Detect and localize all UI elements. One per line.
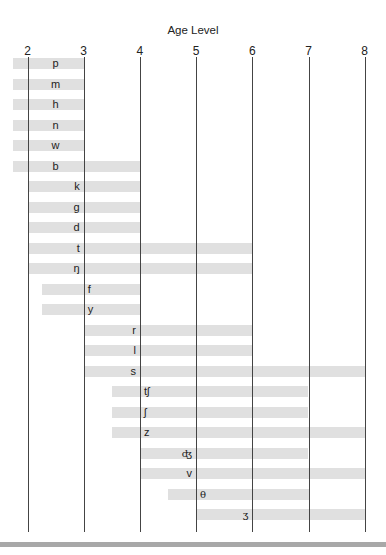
bar-label: tʃ	[144, 386, 150, 397]
x-tick-label: 7	[299, 44, 319, 58]
bar-label: p	[36, 58, 76, 69]
grid-line	[309, 57, 310, 532]
range-bar	[168, 489, 309, 500]
bar-label: w	[36, 140, 76, 151]
range-bar	[112, 427, 365, 438]
x-tick-label: 8	[355, 44, 375, 58]
grid-line	[252, 57, 253, 532]
bar-label: θ	[200, 489, 206, 500]
grid-line	[28, 57, 29, 532]
grid-line	[196, 57, 197, 532]
bar-label: ʃ	[144, 407, 146, 418]
x-tick-label: 4	[130, 44, 150, 58]
bar-label: y	[88, 304, 94, 315]
bar-label: t	[40, 243, 80, 254]
bar-label: n	[36, 120, 76, 131]
range-bar	[112, 407, 309, 418]
x-tick-label: 5	[186, 44, 206, 58]
bar-label: h	[36, 99, 76, 110]
grid-line	[140, 57, 141, 532]
bar-label: z	[144, 427, 150, 438]
chart-title: Age Level	[0, 24, 386, 36]
range-bar	[13, 161, 139, 172]
grid-line	[365, 57, 366, 532]
bar-label: s	[96, 366, 136, 377]
bar-label: v	[152, 468, 192, 479]
bar-label: d	[40, 222, 80, 233]
bar-label: r	[96, 325, 136, 336]
phoneme-age-chart: Age Level 2345678 pmhnwbkgdtŋfyrlstʃʃzʤv…	[0, 0, 386, 555]
range-bar	[112, 386, 309, 397]
bar-label: m	[36, 79, 76, 90]
bar-label: ʒ	[208, 509, 248, 520]
bar-label: g	[40, 202, 80, 213]
bar-label: k	[40, 181, 80, 192]
x-tick-label: 2	[18, 44, 38, 58]
bar-label: ʤ	[152, 448, 192, 459]
footer-rule	[0, 542, 386, 547]
x-tick-label: 3	[74, 44, 94, 58]
grid-line	[84, 57, 85, 532]
bar-label: f	[88, 284, 91, 295]
x-tick-label: 6	[242, 44, 262, 58]
bar-label: b	[36, 161, 76, 172]
bar-label: l	[96, 345, 136, 356]
bar-label: ŋ	[40, 263, 80, 274]
